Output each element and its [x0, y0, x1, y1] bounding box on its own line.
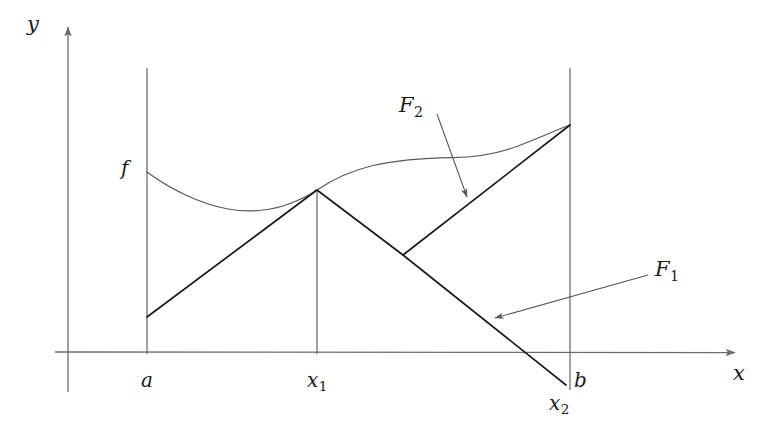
curve-f-label: f [121, 158, 128, 178]
figure-canvas [0, 0, 773, 436]
annotation-label-F2: F2 [399, 95, 423, 119]
vertical-guides-group [147, 68, 570, 390]
annotation-arrows-group [437, 114, 648, 318]
polyline-F1-group [147, 190, 566, 385]
math-figure: y x f a x1 b x2 F1 F2 [0, 0, 773, 436]
polyline-F1 [147, 190, 566, 385]
annotation-label-F2-base: F [399, 93, 414, 117]
tick-label-a: a [141, 370, 153, 390]
leader-arrow-F2 [437, 114, 467, 197]
annotation-label-F2-sub: 2 [414, 104, 423, 120]
axes-group [55, 27, 735, 392]
tick-label-x2: x2 [549, 393, 569, 417]
y-axis-label: y [27, 14, 39, 35]
tick-label-x1-base: x [307, 368, 318, 392]
annotation-label-F1: F1 [655, 259, 679, 283]
annotation-label-F1-base: F [655, 257, 670, 281]
curve-f-group [147, 125, 570, 211]
polyline-F2-group [403, 125, 570, 255]
curve-f [147, 125, 570, 211]
annotation-label-F1-sub: 1 [670, 268, 679, 284]
leader-arrow-F1 [495, 275, 648, 318]
tick-label-b: b [574, 370, 587, 390]
tick-label-x2-base: x [549, 391, 560, 415]
x-axis-line [55, 352, 735, 353]
x-axis-label: x [733, 363, 745, 384]
tick-label-x1: x1 [307, 370, 327, 394]
polyline-F2 [403, 125, 570, 255]
tick-label-x2-sub: 2 [561, 401, 570, 417]
tick-label-x1-sub: 1 [319, 378, 328, 394]
